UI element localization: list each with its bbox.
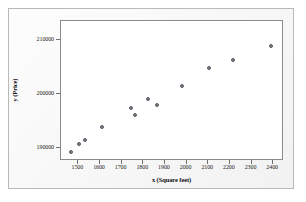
data-point [129, 106, 133, 110]
x-axis-tick-label: 2400 [266, 164, 278, 170]
data-point [77, 142, 81, 146]
plot-frame [60, 20, 283, 160]
y-axis-tick-label: 200000 [37, 90, 54, 96]
data-point [180, 84, 184, 88]
data-point [83, 138, 87, 142]
plot-data-area [61, 21, 282, 159]
data-point [69, 150, 73, 154]
data-point [207, 66, 211, 70]
x-axis: 1500160017001800190020002100220023002400 [60, 160, 283, 190]
y-axis-tick-label: 210000 [37, 36, 54, 42]
x-axis-tick-label: 2100 [201, 164, 213, 170]
data-point [133, 113, 137, 117]
y-axis: 190000200000210000 [0, 20, 60, 160]
y-axis-title: y (Price) [11, 79, 18, 102]
x-axis-title: x (Square feet) [60, 176, 283, 183]
x-axis-tick-label: 1800 [136, 164, 148, 170]
x-axis-tick-label: 1900 [158, 164, 170, 170]
x-axis-tick-label: 2000 [180, 164, 192, 170]
scatter-plot-figure: 190000200000210000 y (Price) 15001600170… [0, 0, 306, 202]
data-point [155, 103, 159, 107]
x-axis-tick-label: 1700 [115, 164, 127, 170]
x-axis-tick-label: 2300 [245, 164, 257, 170]
data-point [231, 58, 235, 62]
x-axis-tick-label: 1600 [93, 164, 105, 170]
data-point [269, 44, 273, 48]
data-point [100, 125, 104, 129]
x-axis-tick-label: 2200 [223, 164, 235, 170]
data-point [146, 97, 150, 101]
x-axis-tick-label: 1500 [72, 164, 84, 170]
y-axis-tick-label: 190000 [37, 144, 54, 150]
